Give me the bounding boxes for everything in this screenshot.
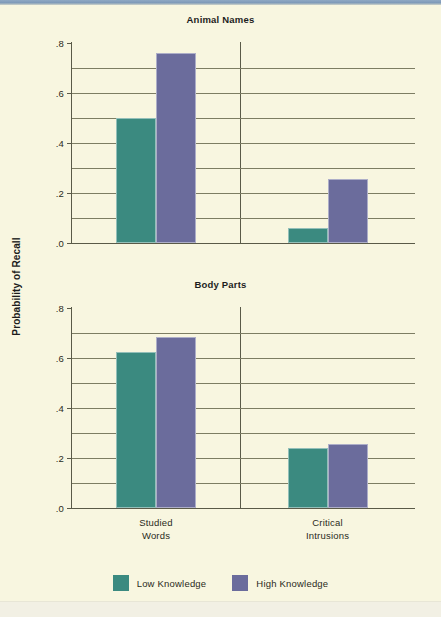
y-tick-mark bbox=[67, 243, 72, 244]
bar-low-knowledge-studied-words bbox=[116, 118, 156, 243]
y-tick-mark bbox=[67, 508, 72, 509]
chart-panel-body-parts: Body Parts .0.2.4.6.8StudiedWordsCritica… bbox=[0, 270, 441, 601]
chart-title-animal-names: Animal Names bbox=[0, 14, 441, 25]
legend-label: High Knowledge bbox=[256, 578, 328, 589]
y-tick-mark bbox=[67, 143, 72, 144]
y-tick-label: .8 bbox=[42, 303, 64, 314]
y-tick-label: .2 bbox=[42, 453, 64, 464]
chart-title-body-parts: Body Parts bbox=[0, 279, 441, 290]
x-axis-baseline bbox=[71, 243, 415, 244]
bar-high-knowledge-critical-intrusions bbox=[328, 444, 368, 508]
x-category-label: StudiedWords bbox=[96, 516, 216, 542]
y-tick-label: .0 bbox=[42, 238, 64, 249]
y-tick-label: .8 bbox=[42, 38, 64, 49]
y-tick-mark bbox=[67, 308, 72, 309]
x-category-label-line2: Words bbox=[96, 529, 216, 542]
y-tick-label: .4 bbox=[42, 138, 64, 149]
y-tick-mark bbox=[67, 358, 72, 359]
y-tick-label: .4 bbox=[42, 403, 64, 414]
y-tick-mark bbox=[67, 193, 72, 194]
page-bottom-rule bbox=[0, 601, 441, 617]
figure-container: Probability of Recall Animal Names .0.2.… bbox=[0, 5, 441, 601]
y-tick-mark bbox=[67, 408, 72, 409]
x-category-label-line2: Intrusions bbox=[268, 529, 388, 542]
bar-high-knowledge-critical-intrusions bbox=[328, 179, 368, 243]
bar-low-knowledge-critical-intrusions bbox=[288, 228, 328, 243]
legend-item-low-knowledge[interactable]: Low Knowledge bbox=[113, 575, 207, 591]
bar-high-knowledge-studied-words bbox=[156, 53, 196, 243]
x-category-label-line1: Studied bbox=[96, 516, 216, 529]
y-tick-label: .6 bbox=[42, 353, 64, 364]
y-tick-label: .6 bbox=[42, 88, 64, 99]
bar-high-knowledge-studied-words bbox=[156, 337, 196, 508]
plot-area-body-parts: .0.2.4.6.8StudiedWordsCriticalIntrusions bbox=[72, 308, 415, 508]
y-tick-label: .2 bbox=[42, 188, 64, 199]
bar-low-knowledge-critical-intrusions bbox=[288, 448, 328, 508]
y-tick-label: .0 bbox=[42, 503, 64, 514]
legend-swatch-icon bbox=[113, 575, 129, 591]
y-tick-mark bbox=[67, 458, 72, 459]
y-tick-mark bbox=[67, 43, 72, 44]
gridline bbox=[72, 68, 415, 69]
x-category-label-line1: Critical bbox=[268, 516, 388, 529]
legend-label: Low Knowledge bbox=[137, 578, 207, 589]
bar-low-knowledge-studied-words bbox=[116, 352, 156, 508]
x-category-label: CriticalIntrusions bbox=[268, 516, 388, 542]
chart-legend: Low KnowledgeHigh Knowledge bbox=[0, 575, 441, 591]
x-axis-baseline bbox=[71, 508, 415, 509]
gridline bbox=[72, 93, 415, 94]
chart-panel-animal-names: Animal Names .0.2.4.6.8 bbox=[0, 5, 441, 275]
plot-area-animal-names: .0.2.4.6.8 bbox=[72, 43, 415, 243]
gridline bbox=[72, 333, 415, 334]
y-tick-mark bbox=[67, 93, 72, 94]
legend-item-high-knowledge[interactable]: High Knowledge bbox=[232, 575, 328, 591]
legend-swatch-icon bbox=[232, 575, 248, 591]
